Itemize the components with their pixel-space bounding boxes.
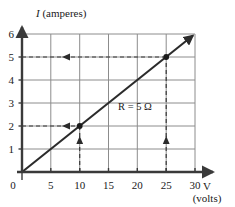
x-axis-label-symbol: V	[203, 180, 211, 192]
resistance-annotation-symbol: R	[118, 101, 125, 112]
ytick-label-3: 3	[9, 97, 15, 109]
ytick-label-6: 6	[9, 28, 15, 40]
xtick-label-20: 20	[132, 179, 144, 191]
x-axis-label-unit: (volts)	[193, 192, 222, 205]
y-axis-label: I (amperes)	[35, 7, 87, 20]
ytick-label-1: 1	[9, 143, 15, 155]
y-axis-label-unit: (amperes)	[42, 7, 86, 20]
ohms-law-graph: 6 5 4 3 2 1 0 5 10 15 20 25 30 I (ampere…	[0, 0, 235, 207]
xtick-label-5: 5	[48, 179, 54, 191]
resistance-annotation: R = 5 Ω	[118, 101, 152, 112]
ytick-label-4: 4	[9, 74, 15, 86]
origin-label-0: 0	[10, 179, 16, 191]
chart-canvas: 6 5 4 3 2 1 0 5 10 15 20 25 30 I (ampere…	[0, 0, 235, 207]
data-point-marker-25-5[interactable]	[163, 54, 169, 60]
ytick-label-5: 5	[9, 51, 15, 63]
ytick-label-2: 2	[9, 120, 15, 132]
xtick-label-15: 15	[103, 179, 115, 191]
xtick-label-30: 30	[190, 179, 202, 191]
resistance-annotation-value: = 5 Ω	[125, 101, 152, 112]
xtick-label-25: 25	[161, 179, 173, 191]
xtick-label-10: 10	[74, 179, 86, 191]
data-point-marker-10-2[interactable]	[77, 123, 83, 129]
